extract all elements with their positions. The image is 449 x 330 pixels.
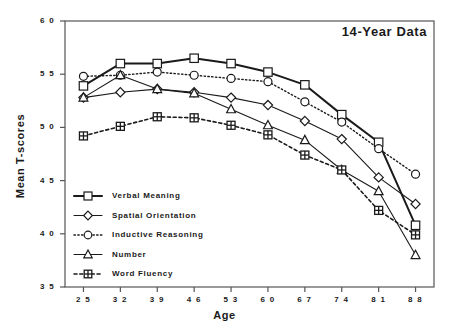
legend-label: Inductive Reasoning [112, 230, 204, 239]
x-tick-label: 6 7 [290, 295, 320, 304]
figure-14-year-data: Mean T-scores Age 14-Year Data 6 05 55 0… [0, 0, 449, 330]
y-tick-label: 3 5 [31, 282, 55, 291]
legend-swatch-verbal-meaning [74, 192, 102, 200]
y-tick-label: 4 0 [31, 229, 55, 238]
legend-swatch-inductive-reasoning [74, 231, 102, 239]
x-tick-label: 2 5 [68, 295, 98, 304]
series-spatial-orientation [79, 84, 420, 208]
y-tick-label: 5 0 [31, 122, 55, 131]
x-axis-label: Age [0, 309, 449, 321]
y-tick-label: 4 5 [31, 176, 55, 185]
legend-swatch-word-fluency [74, 270, 102, 278]
series-word-fluency [79, 113, 419, 239]
legend-label: Spatial Orientation [112, 211, 196, 220]
chart-plot-area [0, 0, 449, 330]
x-tick-label: 5 3 [216, 295, 246, 304]
legend-label: Number [112, 250, 146, 259]
chart-title: 14-Year Data [342, 24, 427, 39]
x-tick-label: 8 8 [401, 295, 431, 304]
x-tick-label: 3 9 [142, 295, 172, 304]
x-tick-label: 4 6 [179, 295, 209, 304]
legend-label: Word Fluency [112, 269, 173, 278]
x-tick-label: 8 1 [364, 295, 394, 304]
x-tick-label: 6 0 [253, 295, 283, 304]
legend-label: Verbal Meaning [112, 191, 180, 200]
legend-symbols [74, 192, 102, 278]
x-tick-label: 3 2 [105, 295, 135, 304]
data-series-layer [79, 54, 420, 258]
y-tick-label: 5 5 [31, 69, 55, 78]
y-axis-label: Mean T-scores [14, 106, 26, 206]
y-tick-label: 6 0 [31, 16, 55, 25]
legend-swatch-spatial-orientation [74, 211, 102, 220]
legend-swatch-number [74, 250, 102, 258]
x-tick-label: 7 4 [327, 295, 357, 304]
